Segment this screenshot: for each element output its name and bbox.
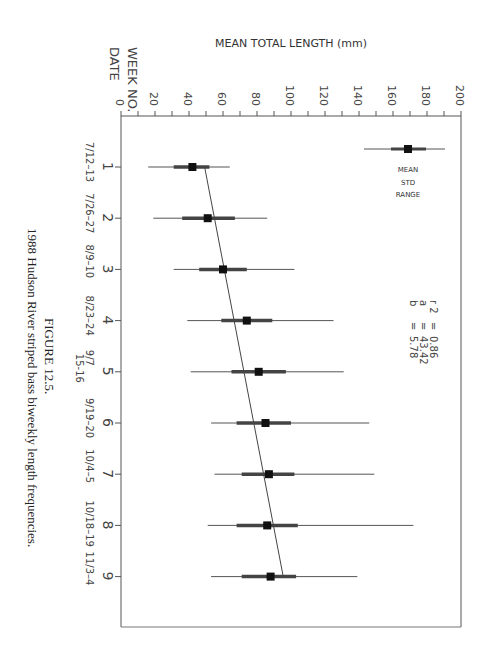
legend-mean: MEAN xyxy=(398,166,419,174)
figure-number: FIGURE 12.5. xyxy=(42,318,57,394)
regression-stats: r 2 = 0.86 a = 43.42 b = 5.78 xyxy=(408,300,439,365)
week-tick-label: 2 xyxy=(100,213,116,222)
week-axis-title: WEEK NO. xyxy=(125,47,140,113)
length-axis-title: MEAN TOTAL LENGTH (mm) xyxy=(215,37,367,50)
length-tick-label: 180 xyxy=(419,85,432,106)
data-point-week-8 xyxy=(208,521,414,529)
week-tick-label: 4 xyxy=(100,316,116,325)
length-tick-label: 80 xyxy=(249,92,262,106)
length-tick-label: 40 xyxy=(181,92,194,106)
data-point-week-9 xyxy=(211,573,357,581)
length-tick-label: 200 xyxy=(453,85,466,106)
svg-text:b: b xyxy=(408,300,419,306)
date-label: 10/18–19 xyxy=(84,500,95,547)
length-frequency-chart: 020406080100120140160180200 MEAN TOTAL L… xyxy=(0,0,487,652)
week-tick-label: 8 xyxy=(100,520,116,529)
svg-text:5.78: 5.78 xyxy=(408,336,419,358)
length-tick-label: 120 xyxy=(317,85,330,106)
data-point-week-7 xyxy=(215,470,375,478)
svg-text:=: = xyxy=(408,322,419,330)
week-tick-label: 7 xyxy=(100,469,116,478)
data-point-week-6 xyxy=(211,419,369,427)
date-label: 8/23–24 xyxy=(84,296,95,336)
week-axis: 17/12–1327/26–2738/9–1048/23–2459/715-16… xyxy=(74,142,121,585)
data-point-week-2 xyxy=(153,214,267,222)
date-axis-title: DATE xyxy=(107,47,122,81)
date-label: 9/19–20 xyxy=(84,398,95,438)
week-tick-label: 5 xyxy=(100,367,116,376)
length-tick-label: 20 xyxy=(147,92,160,106)
date-label: 11/3–4 xyxy=(84,552,95,586)
week-tick-label: 9 xyxy=(100,572,116,581)
data-point-week-4 xyxy=(187,317,333,325)
date-label: 15-16 xyxy=(74,354,85,383)
data-point-week-3 xyxy=(174,265,295,273)
week-tick-label: 6 xyxy=(100,418,116,427)
date-label: 7/26–27 xyxy=(84,193,95,233)
length-tick-label: 140 xyxy=(351,85,364,106)
figure-caption: 1988 Hudson River striped bass biweekly … xyxy=(25,228,40,547)
week-tick-label: 3 xyxy=(100,264,116,273)
legend-std: STD xyxy=(401,179,415,187)
length-tick-label: 100 xyxy=(283,85,296,106)
legend: MEAN STD RANGE xyxy=(364,145,445,199)
date-label: 7/12–13 xyxy=(84,142,95,182)
length-tick-label: 160 xyxy=(385,85,398,106)
plot-area xyxy=(148,163,413,581)
week-tick-label: 1 xyxy=(100,162,116,171)
date-label: 10/4–5 xyxy=(84,449,95,483)
date-label: 8/9–10 xyxy=(84,244,95,278)
data-point-week-5 xyxy=(191,368,344,376)
length-tick-label: 60 xyxy=(215,92,228,106)
length-tick-label: 0 xyxy=(113,99,126,106)
legend-range: RANGE xyxy=(396,191,420,199)
data-point-week-1 xyxy=(148,163,230,171)
